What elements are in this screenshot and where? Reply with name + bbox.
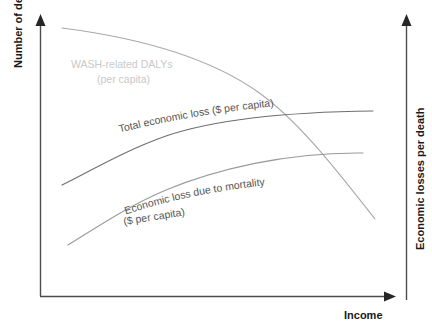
- annotation-mortality-loss: Economic loss due to mortality: [123, 175, 266, 216]
- mortality-label-line1: Economic loss due to mortality: [123, 175, 266, 216]
- y-axis-right-title: Economic losses per death: [414, 107, 426, 250]
- series-line-total-economic-loss: [62, 111, 373, 185]
- annotation-total-economic-loss: Total economic loss ($ per capita): [117, 96, 274, 134]
- wash-label-line2: (per capita): [97, 73, 150, 85]
- x-axis-title: Income: [344, 309, 383, 321]
- annotation-wash-dalys: WASH-related DALYs (per capita): [71, 58, 173, 85]
- series-line-mortality-economic-loss: [68, 153, 363, 245]
- total-loss-label-text: Total economic loss ($ per capita): [117, 96, 274, 134]
- x-axis-arrowhead: [384, 292, 396, 302]
- chart-figure: Number of deaths Economic losses per dea…: [0, 0, 432, 329]
- y-axis-left-title: Number of deaths: [12, 0, 24, 68]
- y-axis-right-arrowhead: [402, 14, 412, 26]
- chart-canvas: Number of deaths Economic losses per dea…: [0, 0, 432, 329]
- wash-label-line1: WASH-related DALYs: [71, 58, 173, 70]
- y-axis-left-arrowhead: [36, 14, 46, 26]
